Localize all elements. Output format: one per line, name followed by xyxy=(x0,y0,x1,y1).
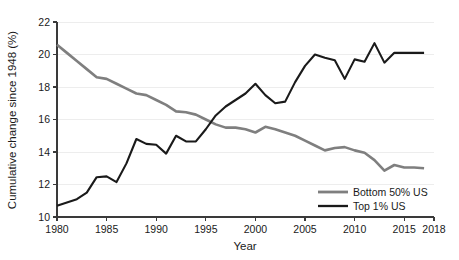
chart-legend: Bottom 50% USTop 1% US xyxy=(318,186,428,212)
x-tick-label: 2015 xyxy=(393,223,417,235)
y-tick-label: 10 xyxy=(38,211,50,223)
x-tick-label: 1990 xyxy=(145,223,169,235)
y-tick-label: 22 xyxy=(38,16,50,28)
x-tick-label: 2018 xyxy=(422,223,446,235)
series-line xyxy=(57,43,424,206)
x-tick-label: 1985 xyxy=(95,223,119,235)
data-series-group xyxy=(57,43,424,206)
y-tick-label: 20 xyxy=(38,48,50,60)
y-axis-tick-labels: 10121416182022 xyxy=(38,16,57,223)
y-tick-label: 18 xyxy=(38,81,50,93)
x-tick-label: 2005 xyxy=(293,223,317,235)
y-tick-label: 14 xyxy=(38,146,50,158)
x-tick-label: 1980 xyxy=(45,223,69,235)
legend-label: Top 1% US xyxy=(353,200,406,212)
x-axis-tick-labels: 198019851990199520002005201020152018 xyxy=(45,217,446,235)
y-tick-label: 16 xyxy=(38,113,50,125)
chart-container: 10121416182022 1980198519901995200020052… xyxy=(0,0,459,260)
y-axis-title: Cumulative change since 1948 (%) xyxy=(6,31,18,210)
x-tick-label: 2010 xyxy=(343,223,367,235)
x-tick-label: 2000 xyxy=(244,223,268,235)
x-tick-label: 1995 xyxy=(194,223,218,235)
line-chart: 10121416182022 1980198519901995200020052… xyxy=(0,0,459,260)
legend-label: Bottom 50% US xyxy=(353,186,428,198)
y-tick-label: 12 xyxy=(38,178,50,190)
x-axis-title: Year xyxy=(233,240,256,252)
